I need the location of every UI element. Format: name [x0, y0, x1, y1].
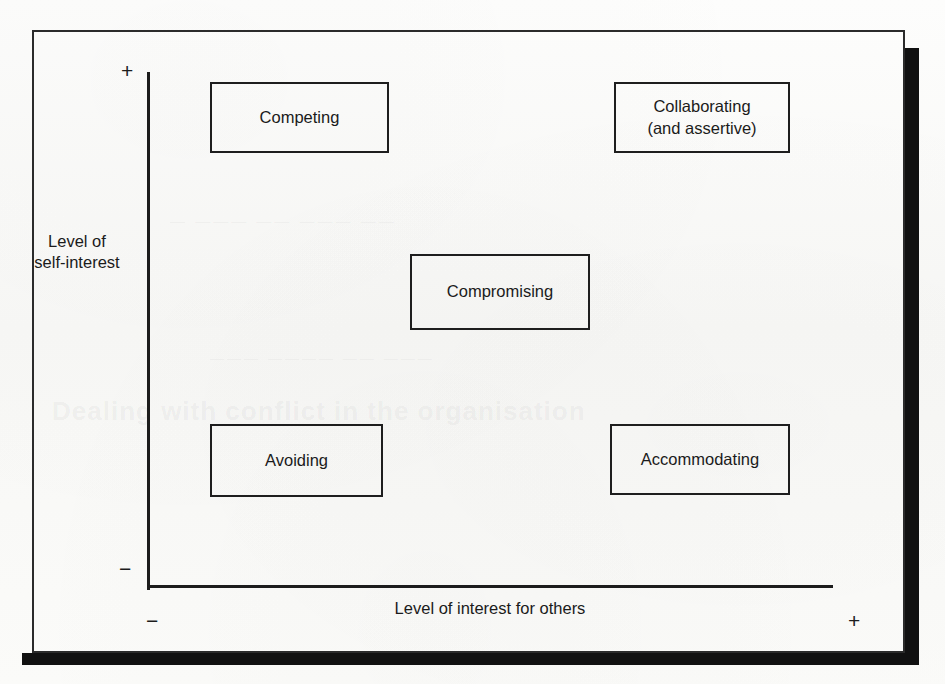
y-axis-label: Level of self-interest: [18, 231, 136, 272]
y-axis-plus-sign: +: [121, 60, 133, 81]
mode-box-competing-label: Competing: [260, 107, 340, 129]
mode-box-compromising-label: Compromising: [447, 281, 553, 303]
mode-box-avoiding-label: Avoiding: [265, 450, 328, 472]
mode-box-avoiding: Avoiding: [210, 424, 383, 497]
x-axis-label: Level of interest for others: [230, 598, 750, 619]
mode-box-competing: Competing: [210, 82, 389, 153]
figure-shadow-right: [905, 48, 919, 665]
mode-box-accommodating: Accommodating: [610, 424, 790, 495]
figure-page: — ——— —— ——— —— Dealing with conflict in…: [0, 0, 945, 684]
figure-shadow-bottom: [22, 653, 919, 665]
y-axis-line: [147, 72, 150, 590]
mode-box-collaborating-label: Collaborating (and assertive): [647, 96, 756, 140]
x-axis-minus-sign: −: [146, 610, 158, 631]
y-axis-minus-sign: −: [119, 558, 131, 579]
x-axis-plus-sign: +: [848, 610, 860, 631]
mode-box-collaborating: Collaborating (and assertive): [614, 82, 790, 153]
mode-box-compromising: Compromising: [410, 254, 590, 330]
mode-box-accommodating-label: Accommodating: [641, 449, 759, 471]
x-axis-line: [147, 585, 833, 588]
